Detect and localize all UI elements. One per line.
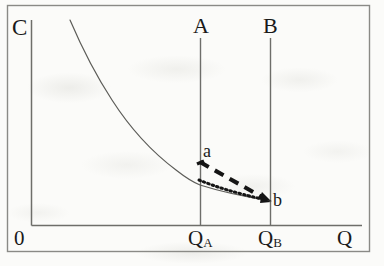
point-a-label: a (203, 142, 211, 160)
vertical-line-b-label: B (263, 15, 278, 37)
x-tick-label-qb: QB (258, 228, 282, 249)
y-axis-label: C (12, 16, 27, 39)
point-b-label: b (273, 191, 282, 209)
x-tick-qa-base: Q (188, 226, 203, 250)
x-tick-qa-subscript: A (203, 235, 212, 250)
origin-label: 0 (14, 228, 25, 249)
x-tick-label-qa: QA (188, 228, 213, 249)
x-tick-qb-base: Q (258, 226, 273, 250)
vertical-line-a-label: A (193, 15, 209, 37)
x-axis-label: Q (337, 228, 352, 249)
figure-frame (8, 6, 370, 252)
cost-curve-solid (70, 20, 271, 201)
x-tick-qb-subscript: B (273, 235, 282, 250)
figure-container: C 0 Q QA QB A B a b (0, 0, 384, 266)
